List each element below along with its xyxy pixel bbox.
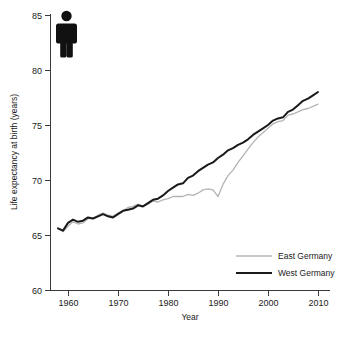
y-tick-label: 80	[32, 66, 42, 76]
x-axis-title: Year	[181, 312, 198, 322]
person-figure-icon	[56, 11, 77, 58]
x-tick-label: 1990	[208, 298, 228, 308]
x-tick-label: 1970	[108, 298, 128, 308]
x-tick-label: 2010	[308, 298, 328, 308]
y-tick-label: 85	[32, 11, 42, 21]
y-tick-label: 70	[32, 176, 42, 186]
x-axis: 196019701980199020002010	[51, 291, 331, 309]
y-tick-label: 65	[32, 231, 42, 241]
legend-label: West Germany	[278, 268, 335, 278]
y-tick-label: 75	[32, 121, 42, 131]
life-expectancy-chart: 606570758085 196019701980199020002010 Li…	[0, 0, 359, 338]
x-tick-label: 2000	[258, 298, 278, 308]
x-tick-label: 1980	[158, 298, 178, 308]
series-line-west-germany	[58, 92, 318, 231]
data-series-group	[58, 92, 318, 232]
y-axis: 606570758085	[32, 11, 51, 296]
chart-canvas: 606570758085 196019701980199020002010 Li…	[0, 0, 359, 338]
x-tick-label: 1960	[58, 298, 78, 308]
chart-legend: East GermanyWest Germany	[236, 251, 335, 278]
y-axis-title: Life expectancy at birth (years)	[9, 94, 19, 210]
series-line-east-germany	[58, 104, 318, 232]
legend-label: East Germany	[278, 251, 333, 261]
y-tick-label: 60	[32, 286, 42, 296]
